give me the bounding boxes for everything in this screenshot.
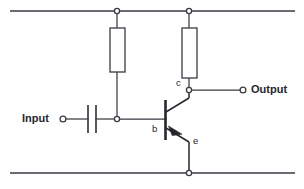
input-label: Input [22,113,49,124]
output-terminal[interactable] [240,87,246,93]
transistor-collector-lead [166,98,189,112]
bias-resistor [110,28,125,72]
collector-output-junction [186,87,191,92]
base-bias-junction [114,116,119,121]
collector-load-resistor [182,28,197,78]
output-label: Output [251,84,287,95]
top-rail-r1-junction [114,8,119,13]
collector-label: c [176,78,181,88]
emitter-label: e [193,136,198,146]
emitter-arrow-icon [169,126,183,136]
emitter-ground-junction [186,170,191,175]
circuit-schematic: Input Output c b e [0,0,304,189]
top-rail-r2-junction [186,8,191,13]
base-label: b [152,124,157,134]
input-terminal[interactable] [60,116,66,122]
